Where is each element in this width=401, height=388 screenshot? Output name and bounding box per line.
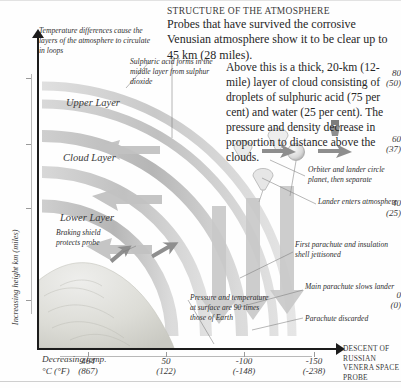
note-first-parachute: First parachute and insulation shell jet… <box>295 240 401 260</box>
y-axis-inner-rule <box>31 74 32 314</box>
layer-label-upper: Upper Layer <box>66 97 120 110</box>
x-tick-mark-2 <box>244 352 245 357</box>
top-rule <box>0 0 401 1</box>
y-tick-mark-0 <box>26 78 31 79</box>
y-tick-label-3: 0(0) <box>367 291 401 311</box>
x-tick-mark-3 <box>314 352 315 357</box>
bottom-rule <box>0 381 401 382</box>
x-tick-label-3: -150(-238) <box>286 356 342 377</box>
y-axis-line <box>37 36 39 350</box>
x-tick-label-1: 50(122) <box>138 356 194 377</box>
note-orbiter-separation: Orbiter and lander circle planet, then s… <box>308 165 394 185</box>
x-tick-label-2: -100(-148) <box>216 356 272 377</box>
y-tick-mark-1 <box>26 144 31 145</box>
note-sulphuric-acid: Sulphuric acid forms in the middle layer… <box>130 57 222 87</box>
descent-caption: DESCENT OF RUSSIAN VENERA SPACE PROBE <box>343 344 401 383</box>
layer-label-lower: Lower Layer <box>60 212 114 225</box>
y-tick-mark-2 <box>26 208 31 209</box>
atmosphere-diagram-page: STRUCTURE OF THE ATMOSPHERE Probes that … <box>0 0 401 388</box>
x-tick-mark-1 <box>166 352 167 357</box>
note-surface-pressure: Pressure and temperature at surface are … <box>190 293 274 323</box>
y-tick-label-1: 60(37) <box>367 135 401 155</box>
y-axis-arrow-icon <box>32 29 44 38</box>
x-axis-line <box>37 348 337 350</box>
note-parachute-discarded: Parachute discarded <box>305 314 399 324</box>
y-tick-label-2: 40(25) <box>367 199 401 219</box>
note-braking-shield: Braking shield protects probe <box>56 228 126 248</box>
y-tick-mark-3 <box>26 300 31 301</box>
layer-label-cloud: Cloud Layer <box>63 152 116 165</box>
y-axis-title: Increasing height km (miles) <box>11 223 22 331</box>
parachute-glyph-1 <box>253 169 273 203</box>
y-tick-label-0: 80(50) <box>367 69 401 89</box>
page-title: STRUCTURE OF THE ATMOSPHERE <box>167 6 399 18</box>
x-axis-title: Decreasing temp. °C (°F) <box>42 354 118 377</box>
note-temperature-differences: Temperature differences cause the layers… <box>39 26 155 56</box>
